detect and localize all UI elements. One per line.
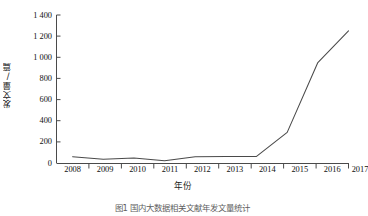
x-tick-label-2009: 2009 (97, 166, 114, 174)
x-tick-label-2012: 2012 (194, 166, 211, 174)
y-axis-ticks (57, 15, 61, 142)
x-tick-label-2008: 2008 (64, 166, 81, 174)
x-axis-tick-labels: 2008 2009 2010 2011 2012 2013 2014 2015 … (0, 166, 365, 180)
x-tick-label-2014: 2014 (259, 166, 276, 174)
x-tick-label-2013: 2013 (227, 166, 244, 174)
x-axis-title: 年份 (0, 181, 365, 191)
x-tick-label-2016: 2016 (324, 166, 341, 174)
x-tick-label-2015: 2015 (291, 166, 308, 174)
x-tick-label-2011: 2011 (162, 166, 178, 174)
data-series-line (73, 31, 349, 161)
x-tick-label-2017: 2017 (352, 166, 368, 174)
x-tick-label-2010: 2010 (129, 166, 146, 174)
figure-caption: 图1 国内大数据相关文献年发文量统计 (0, 203, 365, 216)
